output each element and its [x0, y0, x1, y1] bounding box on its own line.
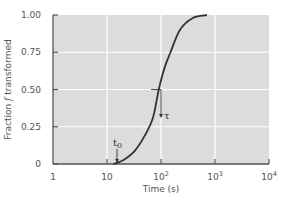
y-tick-label: 0.25 [21, 122, 41, 132]
y-tick-label: 1.00 [21, 10, 41, 20]
x-tick-label: 103 [207, 170, 223, 182]
x-tick-label: 104 [261, 170, 277, 182]
y-axis-label: Fraction f transformed [3, 39, 13, 139]
x-tick-label: 10 [101, 172, 113, 182]
y-tick-label: 0.50 [21, 85, 41, 95]
tau-label: τ [164, 110, 170, 121]
x-tick-labels: 110102103104 [50, 170, 277, 182]
y-tick-labels: 00.250.500.751.00 [21, 10, 41, 169]
chart: 00.250.500.751.00 110102103104 t0τ Time … [0, 0, 287, 203]
y-tick-label: 0 [35, 159, 41, 169]
x-tick-label: 1 [50, 172, 56, 182]
x-axis-label: Time (s) [142, 184, 180, 194]
x-tick-label: 102 [153, 170, 169, 182]
y-tick-label: 0.75 [21, 47, 41, 57]
